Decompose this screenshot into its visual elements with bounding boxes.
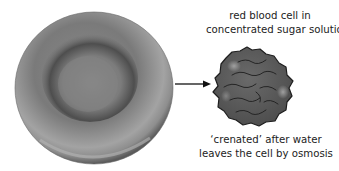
bottom-label: ‘crenated’ after water leaves the cell b… [196, 133, 336, 160]
normal-red-blood-cell [15, 12, 173, 164]
top-label-line1: red blood cell in [206, 9, 334, 23]
bottom-label-line1: ‘crenated’ after water [196, 133, 336, 147]
bottom-label-line2: leaves the cell by osmosis [196, 147, 336, 161]
osmosis-diagram: red blood cell in concentrated sugar sol… [0, 0, 339, 171]
crenated-red-blood-cell [213, 47, 293, 126]
top-label: red blood cell in concentrated sugar sol… [206, 9, 334, 36]
arrow-icon [175, 81, 211, 88]
top-label-line2: concentrated sugar solution [206, 23, 334, 37]
